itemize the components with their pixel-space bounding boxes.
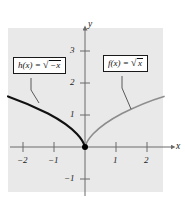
y-tick-label-1: 1	[70, 110, 75, 119]
origin-point	[82, 144, 88, 150]
curve-f	[85, 96, 164, 147]
callout-h: h(x) = √ −x	[13, 57, 66, 74]
x-tick-label-neg1: −1	[48, 156, 59, 165]
callout-h-lhs: h(x) =	[18, 61, 41, 70]
leader-line-h	[31, 78, 39, 103]
callout-f: f(x) = √ x	[103, 55, 148, 72]
function-graph-figure: −2 −1 1 2 3 2 1 −1 x y h(x) = √ −x f(x) …	[0, 0, 185, 205]
leader-line-f	[122, 76, 131, 109]
y-tick-label-2: 2	[70, 78, 75, 87]
callout-h-radicand: −x	[49, 60, 61, 70]
x-tick-label-1: 1	[113, 156, 118, 165]
x-tick-label-2: 2	[144, 156, 149, 165]
curve-h	[8, 96, 85, 147]
callout-h-radical-group: √ −x	[43, 60, 61, 70]
graph-canvas	[0, 0, 185, 205]
callout-f-radical-group: √ x	[131, 58, 143, 68]
callout-f-lhs: f(x) =	[108, 59, 129, 68]
callout-f-radicand: x	[137, 58, 143, 68]
radical-icon: √	[43, 60, 49, 70]
y-axis-label: y	[88, 20, 92, 30]
radical-icon: √	[131, 58, 137, 68]
x-tick-label-neg2: −2	[17, 156, 28, 165]
x-axis-label: x	[176, 142, 180, 152]
y-tick-label-neg1: −1	[64, 174, 75, 183]
y-tick-label-3: 3	[70, 46, 75, 55]
